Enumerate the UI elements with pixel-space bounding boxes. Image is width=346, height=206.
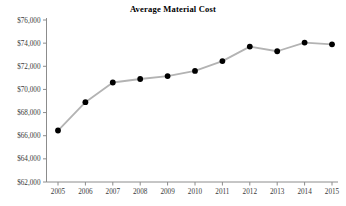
data-series-group: [55, 40, 335, 134]
data-point-marker: [83, 99, 89, 105]
x-axis: 2005200620072008200920102011201220132014…: [47, 182, 340, 196]
line-chart-plot: $62,000$64,000$66,000$68,000$70,000$72,0…: [0, 0, 346, 206]
x-axis-tick-label: 2015: [325, 188, 340, 196]
x-axis-tick-label: 2013: [270, 188, 285, 196]
y-axis: $62,000$64,000$66,000$68,000$70,000$72,0…: [17, 17, 46, 187]
data-point-marker: [192, 68, 198, 74]
x-axis-tick-label: 2009: [160, 188, 175, 196]
chart-container: Average Material Cost $62,000$64,000$66,…: [0, 0, 346, 206]
data-point-marker: [274, 48, 280, 54]
y-axis-tick-label: $66,000: [17, 132, 41, 140]
data-point-marker: [302, 40, 308, 46]
x-axis-tick-label: 2010: [188, 188, 203, 196]
y-axis-tick-label: $70,000: [17, 86, 41, 94]
y-axis-tick-label: $74,000: [17, 40, 41, 48]
x-axis-tick-label: 2006: [78, 188, 93, 196]
x-axis-tick-label: 2005: [51, 188, 66, 196]
x-axis-tick-label: 2014: [297, 188, 312, 196]
y-axis-tick-label: $72,000: [17, 63, 41, 71]
data-point-marker: [137, 76, 143, 82]
x-axis-tick-label: 2007: [106, 188, 121, 196]
y-axis-tick-label: $64,000: [17, 155, 41, 163]
data-point-marker: [329, 41, 335, 47]
y-axis-tick-label: $62,000: [17, 179, 41, 187]
x-axis-tick-label: 2012: [243, 188, 258, 196]
data-point-marker: [220, 58, 226, 64]
data-point-marker: [55, 128, 61, 134]
x-axis-tick-label: 2011: [215, 188, 230, 196]
y-axis-tick-label: $68,000: [17, 109, 41, 117]
data-point-marker: [165, 73, 171, 79]
series-line: [58, 43, 332, 131]
x-axis-tick-label: 2008: [133, 188, 148, 196]
data-point-marker: [110, 80, 116, 86]
y-axis-tick-label: $76,000: [17, 17, 41, 25]
data-point-marker: [247, 44, 253, 50]
